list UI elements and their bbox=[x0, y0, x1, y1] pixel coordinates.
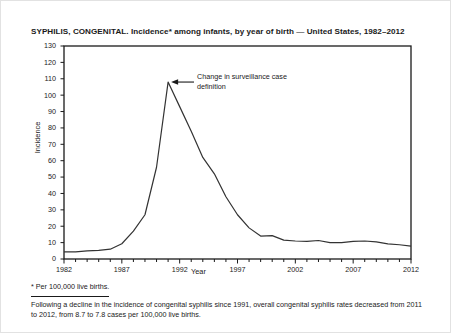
footnote-symbol: * Per 100,000 live births. bbox=[31, 282, 109, 291]
y-tick-label: 10 bbox=[28, 238, 56, 247]
x-tick-label: 2002 bbox=[275, 265, 315, 274]
y-tick-label: 120 bbox=[28, 58, 56, 67]
x-tick-label: 1997 bbox=[218, 265, 258, 274]
y-tick-label: 90 bbox=[28, 107, 56, 116]
y-tick-label: 20 bbox=[28, 222, 56, 231]
annotation-arrow-icon bbox=[171, 79, 194, 85]
y-tick-label: 40 bbox=[28, 189, 56, 198]
x-tick-label: 1982 bbox=[44, 265, 84, 274]
x-tick-label: 1992 bbox=[160, 265, 200, 274]
y-tick-label: 130 bbox=[28, 41, 56, 50]
x-tick-label: 1987 bbox=[102, 265, 142, 274]
data-line-group bbox=[64, 82, 411, 252]
figure-page: SYPHILIS, CONGENITAL. Incidence* among i… bbox=[0, 0, 451, 333]
footnote-body: Following a decline in the incidence of … bbox=[31, 300, 425, 321]
y-tick-label: 0 bbox=[28, 254, 56, 263]
chart-annotation-text: Change in surveillance case definition bbox=[197, 72, 317, 92]
footnote-divider bbox=[31, 296, 109, 297]
y-tick-label: 80 bbox=[28, 123, 56, 132]
x-axis-ticks bbox=[64, 259, 411, 264]
x-tick-label: 2012 bbox=[391, 265, 431, 274]
y-tick-label: 50 bbox=[28, 172, 56, 181]
incidence-line bbox=[64, 82, 411, 252]
chart-figure: SYPHILIS, CONGENITAL. Incidence* among i… bbox=[1, 1, 451, 333]
y-tick-label: 110 bbox=[28, 74, 56, 83]
y-tick-label: 100 bbox=[28, 91, 56, 100]
y-tick-label: 30 bbox=[28, 205, 56, 214]
y-tick-label: 70 bbox=[28, 140, 56, 149]
y-tick-label: 60 bbox=[28, 156, 56, 165]
x-tick-label: 2007 bbox=[333, 265, 373, 274]
